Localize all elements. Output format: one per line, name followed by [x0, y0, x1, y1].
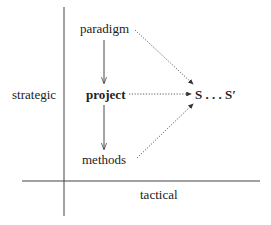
- axis-label-strategic: strategic: [12, 88, 56, 101]
- node-paradigm: paradigm: [80, 22, 129, 35]
- diagram-canvas: [0, 0, 271, 225]
- node-project: project: [86, 88, 125, 101]
- arrow-methods-target: [137, 104, 193, 158]
- axis-label-tactical: tactical: [140, 188, 178, 201]
- node-target: S . . . S′: [195, 88, 236, 101]
- arrow-paradigm-target: [135, 30, 193, 84]
- node-methods: methods: [82, 153, 126, 166]
